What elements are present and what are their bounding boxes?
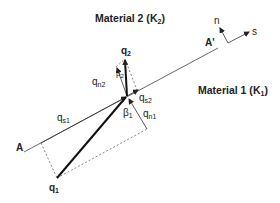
qs2-arrow <box>127 90 138 96</box>
qs1-arrow <box>41 97 126 143</box>
label-n: n <box>214 15 220 26</box>
label-qn1: qn1 <box>143 108 156 120</box>
label-qs2: qs2 <box>139 92 152 104</box>
diagram-canvas: Material 2 (K2) Material 1 (K1) A A' n s… <box>0 0 280 203</box>
label-q2: q2 <box>121 45 131 57</box>
label-beta2: β2 <box>116 69 125 79</box>
q1-construction-lines <box>41 129 147 178</box>
label-a: A <box>16 142 23 153</box>
q1-vector <box>57 97 126 178</box>
label-q1: q1 <box>49 182 59 194</box>
label-qn2: qn2 <box>92 76 105 88</box>
label-beta1: β1 <box>123 107 133 119</box>
label-a-prime: A' <box>205 37 215 48</box>
material-2-label: Material 2 (K2) <box>95 12 165 25</box>
label-s: s <box>252 26 257 37</box>
ns-axes-icon <box>220 28 249 43</box>
label-qs1: qs1 <box>57 112 70 124</box>
material-1-label: Material 1 (K1) <box>198 84 268 97</box>
